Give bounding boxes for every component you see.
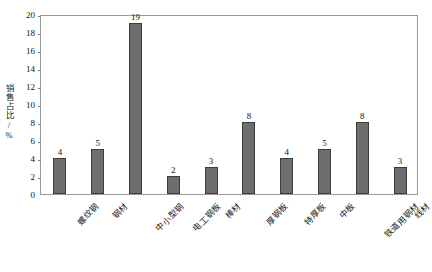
y-tick-label: 10 — [17, 101, 35, 110]
bar-value-label: 3 — [387, 156, 413, 166]
y-tick-mark — [38, 34, 41, 35]
y-tick-label: 4 — [17, 155, 35, 164]
x-tick-label: 中板 — [337, 201, 357, 221]
y-tick-label: 16 — [17, 47, 35, 56]
bar — [205, 167, 218, 194]
bar — [318, 149, 331, 194]
bar — [242, 122, 255, 194]
plot-area: 45192384583 — [40, 15, 418, 195]
bar-value-label: 5 — [312, 138, 338, 148]
x-tick-label: 铁道用钢材 — [382, 201, 421, 240]
bar-value-label: 2 — [160, 165, 186, 175]
x-tick-label: 螺纹钢 — [75, 201, 101, 227]
y-tick-label: 20 — [17, 11, 35, 20]
bar-value-label: 8 — [349, 111, 375, 121]
bar — [129, 23, 142, 194]
x-tick-label: 厚钢板 — [264, 201, 290, 227]
bar — [356, 122, 369, 194]
bar — [394, 167, 407, 194]
x-tick-label: 特厚板 — [302, 201, 328, 227]
y-tick-mark — [38, 106, 41, 107]
y-axis-tick-labels: 02468101214161820 — [15, 0, 35, 272]
y-tick-mark — [38, 124, 41, 125]
y-tick-mark — [38, 160, 41, 161]
bar — [167, 176, 180, 194]
y-tick-label: 18 — [17, 29, 35, 38]
y-tick-mark — [38, 16, 41, 17]
y-tick-mark — [38, 88, 41, 89]
bar-value-label: 19 — [123, 12, 149, 22]
y-tick-label: 0 — [17, 191, 35, 200]
y-tick-mark — [38, 52, 41, 53]
bar — [91, 149, 104, 194]
bar-value-label: 8 — [236, 111, 262, 121]
x-tick-label: 电工钢板 — [191, 201, 224, 234]
y-tick-label: 8 — [17, 119, 35, 128]
y-tick-label: 14 — [17, 65, 35, 74]
y-tick-label: 12 — [17, 83, 35, 92]
x-tick-label: 线材 — [412, 201, 432, 221]
bar-value-label: 5 — [85, 138, 111, 148]
bar — [280, 158, 293, 194]
x-tick-label: 中小型钢 — [153, 201, 186, 234]
bar-value-label: 4 — [47, 147, 73, 157]
bar-value-label: 4 — [274, 147, 300, 157]
y-tick-label: 6 — [17, 137, 35, 146]
y-tick-mark — [38, 70, 41, 71]
y-axis-title: 销售占比/% — [0, 72, 14, 152]
y-tick-mark — [38, 178, 41, 179]
x-tick-label: 棒材 — [223, 201, 243, 221]
y-tick-mark — [38, 142, 41, 143]
bar-value-label: 3 — [198, 156, 224, 166]
x-tick-label: 钢材 — [110, 201, 130, 221]
y-tick-label: 2 — [17, 173, 35, 182]
bar — [53, 158, 66, 194]
